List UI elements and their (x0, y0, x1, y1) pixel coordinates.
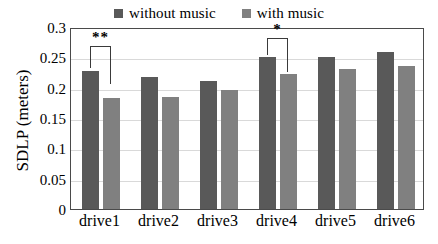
bar-drive2-without-music (141, 77, 158, 209)
y-tick-label: 0.3 (47, 21, 66, 36)
x-tick-label-drive2: drive2 (138, 213, 179, 229)
bar-drive3-with-music (221, 90, 238, 210)
x-tick-label-drive4: drive4 (256, 213, 297, 229)
plot-area: *** (70, 28, 424, 210)
bar-drive6-with-music (398, 66, 415, 209)
bar-drive4-with-music (280, 74, 297, 209)
y-tick-label: 0.15 (40, 112, 66, 127)
significance-marker: * (267, 22, 288, 37)
y-tick-label: 0.2 (47, 81, 66, 96)
bracket-right-tick (110, 46, 111, 84)
legend-entry-without-music: without music (114, 6, 216, 21)
x-tick-label-drive1: drive1 (79, 213, 120, 229)
bar-drive5-without-music (318, 57, 335, 209)
x-tick-label-drive5: drive5 (315, 213, 356, 229)
bar-drive1-without-music (82, 71, 99, 209)
x-tick-label-drive3: drive3 (197, 213, 238, 229)
bar-drive1-with-music (103, 98, 120, 209)
x-tick-label-drive6: drive6 (374, 213, 415, 229)
y-axis-tick-labels: 00.050.10.150.20.250.3 (22, 28, 66, 210)
significance-marker: ** (90, 30, 111, 45)
bracket-horizontal-line (267, 38, 288, 39)
x-axis-tick-labels: drive1drive2drive3drive4drive5drive6 (70, 213, 424, 241)
bar-drive5-with-music (339, 69, 356, 209)
legend-label-without-music: without music (129, 6, 216, 21)
y-tick-label: 0.25 (40, 51, 66, 66)
chart-figure: without music with music SDLP (meters) 0… (0, 0, 438, 244)
bracket-left-tick (267, 38, 268, 55)
bar-series-container (71, 29, 423, 209)
bracket-horizontal-line (90, 46, 111, 47)
bracket-left-tick (90, 46, 91, 68)
y-tick-label: 0.05 (40, 172, 66, 187)
y-tick-label: 0 (59, 203, 67, 218)
legend-label-with-music: with music (257, 6, 324, 21)
legend-swatch-with-music (242, 9, 251, 18)
bracket-right-tick (287, 38, 288, 72)
bar-drive2-with-music (162, 97, 179, 209)
legend-entry-with-music: with music (242, 6, 324, 21)
bar-drive4-without-music (259, 57, 276, 209)
bar-drive3-without-music (200, 81, 217, 209)
bar-drive6-without-music (377, 52, 394, 209)
legend-swatch-without-music (114, 9, 123, 18)
y-tick-label: 0.1 (47, 142, 66, 157)
